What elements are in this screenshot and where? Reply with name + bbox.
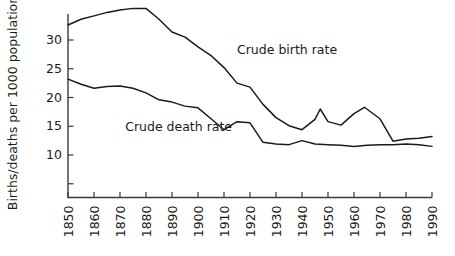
series-annotation-label: Crude death rate <box>125 119 232 134</box>
chart-figure: 1015202530 18501860187018801890190019101… <box>0 0 455 256</box>
y-tick-label: 15 <box>46 118 62 133</box>
x-tick-label: 1950 <box>321 205 336 237</box>
y-axis-title: Births/deaths per 1000 population <box>5 0 20 210</box>
x-tick-label: 1890 <box>165 205 180 237</box>
x-tick-label: 1960 <box>347 205 362 237</box>
x-tick-label: 1880 <box>139 205 154 237</box>
chart-series-annotations: Crude birth rateCrude death rate <box>125 42 337 133</box>
x-tick-label: 1930 <box>269 205 284 237</box>
y-tick-label: 30 <box>46 32 62 47</box>
y-axis-tick-labels: 1015202530 <box>46 32 62 162</box>
y-tick-label: 25 <box>46 61 62 76</box>
x-tick-label: 1980 <box>399 205 414 237</box>
line-chart: 1015202530 18501860187018801890190019101… <box>0 0 455 256</box>
chart-tick-marks <box>68 40 432 198</box>
y-tick-label: 10 <box>46 147 62 162</box>
x-tick-label: 1900 <box>191 205 206 237</box>
x-tick-label: 1990 <box>425 205 440 237</box>
x-tick-label: 1910 <box>217 205 232 237</box>
series-line <box>68 8 432 141</box>
chart-series-lines <box>68 8 432 146</box>
y-tick-label: 20 <box>46 90 62 105</box>
x-axis-tick-labels: 1850186018701880189019001910192019301940… <box>61 205 440 237</box>
x-tick-label: 1920 <box>243 205 258 237</box>
x-tick-label: 1850 <box>61 205 76 237</box>
x-tick-label: 1860 <box>87 205 102 237</box>
series-line <box>68 79 432 146</box>
x-tick-label: 1940 <box>295 205 310 237</box>
x-tick-label: 1870 <box>113 205 128 237</box>
series-annotation-label: Crude birth rate <box>237 42 337 57</box>
x-tick-label: 1970 <box>373 205 388 237</box>
